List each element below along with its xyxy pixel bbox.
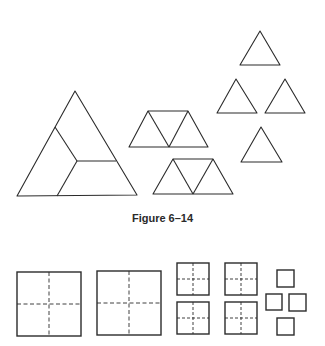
trapezoid-divider-line [169, 111, 188, 147]
large-quartered-square [17, 272, 81, 336]
small-square [266, 294, 282, 310]
trapezoid-divider-line [148, 111, 169, 147]
trapezoid-of-three-triangles [153, 159, 233, 194]
trapezoid-outline [153, 159, 233, 194]
large-quartered-square [97, 271, 161, 335]
small-triangle [265, 79, 305, 113]
medium-quartered-square [225, 302, 257, 334]
small-triangle [241, 127, 282, 162]
medium-quartered-square [177, 302, 209, 334]
medium-quartered-square [177, 263, 209, 295]
medium-quartered-square [225, 263, 257, 295]
trapezoid-divider-line [193, 159, 213, 194]
square-outline [289, 294, 306, 311]
large-divided-triangle [17, 91, 137, 196]
square-outline [277, 318, 294, 335]
triangle-divider-line [57, 161, 77, 196]
trapezoid-divider-line [173, 159, 193, 194]
small-square [289, 294, 306, 311]
small-triangle [240, 31, 280, 65]
figure-caption: Figure 6–14 [0, 212, 325, 224]
small-square [277, 270, 294, 287]
triangle-group [17, 31, 305, 196]
small-triangle [217, 79, 257, 113]
figure-canvas [0, 0, 325, 346]
large-triangle-outline [17, 91, 137, 196]
square-outline [266, 294, 282, 310]
trapezoid-of-three-triangles [129, 111, 208, 147]
small-square [277, 318, 294, 335]
square-group [17, 263, 306, 336]
square-outline [277, 270, 294, 287]
trapezoid-outline [129, 111, 208, 147]
triangle-divider-line [55, 127, 77, 161]
